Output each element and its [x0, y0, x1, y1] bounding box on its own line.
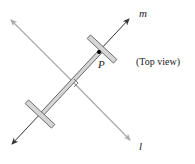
label-p: P — [97, 58, 105, 70]
point-p — [97, 50, 101, 54]
label-m: m — [139, 7, 147, 19]
perpendicular-lines-diagram: P m l (Top view) — [0, 0, 195, 164]
caption-top-view: (Top view) — [136, 56, 180, 68]
label-l: l — [139, 140, 142, 152]
rod — [39, 50, 102, 117]
